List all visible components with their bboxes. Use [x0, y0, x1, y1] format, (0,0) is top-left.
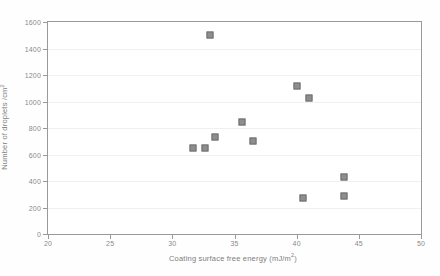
x-tick-mark [297, 234, 298, 239]
x-tick-mark [235, 234, 236, 239]
gridline-horizontal [48, 49, 421, 50]
x-tick-label: 35 [230, 240, 238, 247]
y-tick-label: 1000 [25, 98, 41, 105]
y-tick-mark [43, 75, 48, 76]
data-point-marker [238, 119, 245, 126]
gridline-horizontal [48, 181, 421, 182]
gridline-horizontal [48, 102, 421, 103]
x-tick-mark [48, 234, 49, 239]
y-tick-label: 1600 [25, 19, 41, 26]
y-axis-title-superscript: 2 [0, 84, 5, 87]
data-point-marker [250, 138, 257, 145]
data-point-marker [211, 134, 218, 141]
x-axis-title: Coating surface free energy (mJ/m2) [169, 252, 297, 263]
x-tick-label: 25 [106, 240, 114, 247]
y-tick-mark [43, 128, 48, 129]
data-point-marker [293, 83, 300, 90]
y-tick-label: 200 [29, 204, 41, 211]
x-tick-mark [359, 234, 360, 239]
data-point-marker [340, 174, 347, 181]
data-point-marker [340, 192, 347, 199]
y-tick-mark [43, 208, 48, 209]
y-axis-title: Number of droplets /cm2 [0, 84, 9, 170]
x-tick-label: 20 [44, 240, 52, 247]
gridline-horizontal [48, 128, 421, 129]
y-tick-mark [43, 181, 48, 182]
y-tick-label: 1400 [25, 45, 41, 52]
x-tick-label: 45 [355, 240, 363, 247]
y-axis-title-text: Number of droplets /cm [0, 87, 9, 169]
x-tick-mark [421, 234, 422, 239]
x-tick-label: 30 [168, 240, 176, 247]
x-axis-title-tail: ) [294, 254, 297, 263]
y-tick-label: 800 [29, 125, 41, 132]
scatter-chart-figure: Number of droplets /cm2 Coating surface … [0, 0, 440, 276]
x-axis-title-text: Coating surface free energy (mJ/m [169, 254, 291, 263]
gridline-horizontal [48, 75, 421, 76]
x-tick-label: 50 [417, 240, 425, 247]
plot-area: 02004006008001000120014001600 2025303540… [47, 21, 422, 235]
data-point-marker [299, 195, 306, 202]
gridline-horizontal [48, 208, 421, 209]
data-point-marker [201, 144, 208, 151]
y-tick-mark [43, 22, 48, 23]
x-tick-label: 40 [293, 240, 301, 247]
y-tick-label: 400 [29, 178, 41, 185]
data-point-marker [306, 94, 313, 101]
data-point-marker [206, 32, 213, 39]
y-tick-label: 600 [29, 151, 41, 158]
data-point-marker [190, 144, 197, 151]
y-tick-label: 0 [37, 231, 41, 238]
y-tick-mark [43, 155, 48, 156]
y-tick-mark [43, 49, 48, 50]
y-tick-mark [43, 102, 48, 103]
x-tick-mark [172, 234, 173, 239]
gridline-horizontal [48, 155, 421, 156]
y-tick-label: 1200 [25, 72, 41, 79]
x-tick-mark [110, 234, 111, 239]
